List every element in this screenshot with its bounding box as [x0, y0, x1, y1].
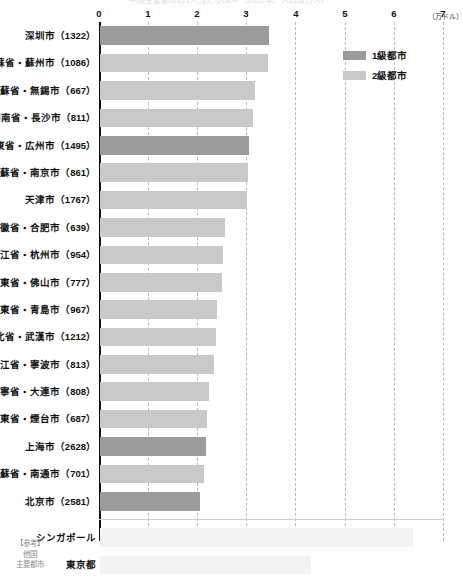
- table-row: 北京市（2581）: [0, 488, 458, 515]
- table-row: 安徽省・合肥市（639）: [0, 214, 458, 241]
- reference-1-bar: [100, 556, 311, 575]
- table-row: 江蘇省・南通市（701）: [0, 460, 458, 487]
- table-row: 江蘇省・南京市（861）: [0, 159, 458, 186]
- city-13-bar: [100, 382, 209, 401]
- city-0-label: 深圳市（1322）: [25, 22, 96, 49]
- city-14-bar: [100, 410, 207, 429]
- city-3-bar: [100, 109, 253, 128]
- table-row: 東京都: [0, 551, 458, 578]
- x-tick-2: 2: [194, 8, 199, 19]
- table-row: 江蘇省・無錫市（667）: [0, 77, 458, 104]
- city-0-bar: [100, 26, 269, 45]
- city-10-bar: [100, 300, 217, 319]
- reference-note-line-1: 他国: [2, 550, 58, 561]
- table-row: 深圳市（1322）: [0, 22, 458, 49]
- table-row: 山東省・青島市（967）: [0, 296, 458, 323]
- city-14-label: 山東省・煙台市（687）: [0, 405, 96, 432]
- reference-note-line-2: 主要都市: [2, 560, 58, 571]
- city-7-bar: [100, 218, 225, 237]
- table-row: 浙江省・杭州市（954）: [0, 241, 458, 268]
- reference-note: 【参考】 他国 主要都市: [2, 539, 58, 571]
- city-8-bar: [100, 246, 223, 265]
- city-4-label: 広東省・広州市（1495）: [0, 132, 96, 159]
- table-row: シンガポール: [0, 524, 458, 551]
- city-12-bar: [100, 355, 214, 374]
- city-5-bar: [100, 163, 248, 182]
- city-10-label: 山東省・青島市（967）: [0, 296, 96, 323]
- table-row: 浙江省・寧波市（813）: [0, 351, 458, 378]
- city-5-label: 江蘇省・南京市（861）: [0, 159, 96, 186]
- city-4-bar: [100, 136, 249, 155]
- city-17-label: 北京市（2581）: [25, 488, 96, 515]
- city-16-bar: [100, 465, 204, 484]
- table-row: 山東省・煙台市（687）: [0, 405, 458, 432]
- table-row: 湖北省・武漢市（1212）: [0, 323, 458, 350]
- city-1-bar: [100, 54, 268, 73]
- table-row: 上海市（2628）: [0, 433, 458, 460]
- table-row: 湖南省・長沙市（811）: [0, 104, 458, 131]
- city-2-label: 江蘇省・無錫市（667）: [0, 77, 96, 104]
- reference-note-line-0: 【参考】: [2, 539, 58, 550]
- city-13-label: 遼寧省・大連市（808）: [0, 378, 96, 405]
- x-tick-1: 1: [145, 8, 150, 19]
- city-9-label: 広東省・佛山市（777）: [0, 269, 96, 296]
- city-17-bar: [100, 492, 200, 511]
- reference-separator: [99, 519, 443, 520]
- chart-title: 中国主要都市の1人当たりGDP（2022年、人口は万人）: [0, 0, 458, 5]
- table-row: 遼寧省・大連市（808）: [0, 378, 458, 405]
- table-row: 天津市（1767）: [0, 186, 458, 213]
- table-row: 広東省・広州市（1495）: [0, 132, 458, 159]
- table-row: 江蘇省・蘇州市（1086）: [0, 49, 458, 76]
- x-tick-3: 3: [243, 8, 248, 19]
- city-7-label: 安徽省・合肥市（639）: [0, 214, 96, 241]
- city-15-label: 上海市（2628）: [25, 433, 96, 460]
- city-6-label: 天津市（1767）: [25, 186, 96, 213]
- city-8-label: 浙江省・杭州市（954）: [0, 241, 96, 268]
- reference-1-label: 東京都: [66, 551, 96, 578]
- city-11-label: 湖北省・武漢市（1212）: [0, 323, 96, 350]
- city-15-bar: [100, 437, 206, 456]
- x-tick-5: 5: [342, 8, 347, 19]
- x-axis-unit-label: （万ドル）: [428, 11, 463, 21]
- x-tick-4: 4: [293, 8, 298, 19]
- city-12-label: 浙江省・寧波市（813）: [0, 351, 96, 378]
- table-row: 広東省・佛山市（777）: [0, 269, 458, 296]
- bar-rows: 深圳市（1322）江蘇省・蘇州市（1086）江蘇省・無錫市（667）湖南省・長沙…: [0, 22, 458, 578]
- city-11-bar: [100, 328, 216, 347]
- city-16-label: 江蘇省・南通市（701）: [0, 460, 96, 487]
- x-axis-ticks: 0 1 2 3 4 5 6 7 （万ドル）: [0, 8, 458, 22]
- reference-0-bar: [100, 528, 413, 547]
- x-tick-6: 6: [391, 8, 396, 19]
- city-9-bar: [100, 273, 222, 292]
- city-1-label: 江蘇省・蘇州市（1086）: [0, 49, 96, 76]
- x-tick-0: 0: [96, 8, 101, 19]
- city-3-label: 湖南省・長沙市（811）: [0, 104, 96, 131]
- city-2-bar: [100, 81, 255, 100]
- city-6-bar: [100, 191, 247, 210]
